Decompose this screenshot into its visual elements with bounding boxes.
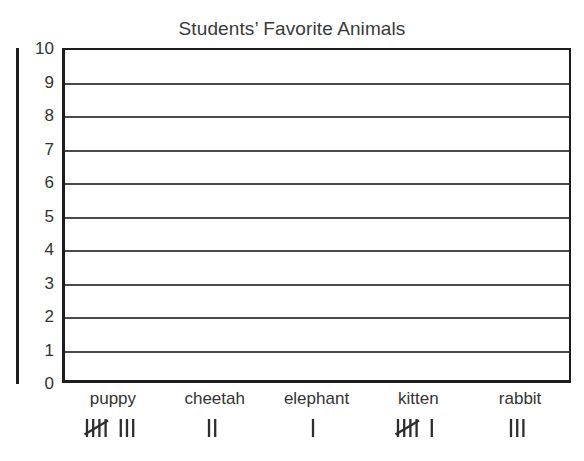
y-tick-label: 9: [16, 74, 54, 91]
category-column: kitten: [367, 390, 469, 441]
tally-marks: [266, 415, 368, 441]
chart-title: Students’ Favorite Animals: [0, 18, 584, 40]
plot-area: [62, 48, 571, 383]
gridlines: [65, 50, 569, 380]
category-column: rabbit: [469, 390, 571, 441]
gridline: [65, 317, 569, 319]
gridline: [65, 250, 569, 252]
gridline: [65, 217, 569, 219]
category-label: rabbit: [469, 390, 571, 408]
category-label: kitten: [367, 390, 469, 408]
gridline: [65, 116, 569, 118]
category-column: elephant: [266, 390, 368, 441]
gridline: [65, 284, 569, 286]
y-tick-label: 6: [16, 174, 54, 191]
gridline: [65, 83, 569, 85]
y-tick-label: 10: [16, 40, 54, 57]
page-edge-artifact: [16, 48, 19, 384]
tally-marks: [469, 415, 571, 441]
y-tick-label: 1: [16, 342, 54, 359]
gridline: [65, 351, 569, 353]
tally-marks: [62, 415, 164, 441]
category-column: cheetah: [164, 390, 266, 441]
gridline: [65, 183, 569, 185]
y-tick-label: 5: [16, 208, 54, 225]
y-tick-label: 2: [16, 308, 54, 325]
category-label: puppy: [62, 390, 164, 408]
y-tick-label: 8: [16, 107, 54, 124]
worksheet-page: Students’ Favorite Animals 109876543210 …: [0, 0, 584, 461]
category-label: cheetah: [164, 390, 266, 408]
gridline: [65, 150, 569, 152]
y-tick-label: 3: [16, 275, 54, 292]
y-tick-label: 0: [16, 375, 54, 392]
y-tick-label: 4: [16, 241, 54, 258]
category-column: puppy: [62, 390, 164, 441]
tally-marks: [367, 415, 469, 441]
tally-marks: [164, 415, 266, 441]
y-tick-label: 7: [16, 141, 54, 158]
category-label: elephant: [266, 390, 368, 408]
x-axis-categories: puppycheetahelephantkittenrabbit: [62, 390, 571, 441]
